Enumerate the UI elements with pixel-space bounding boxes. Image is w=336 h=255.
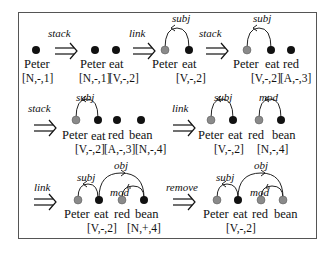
arc-subj: [217, 184, 238, 198]
transition-stack-1: stack: [48, 27, 77, 59]
word-eat: eat: [233, 207, 248, 221]
node-reduced-icon: [161, 46, 169, 54]
step-7: subj obj mod Peter eat red bean [V,-,2] …: [64, 159, 161, 235]
double-arrow-icon: [55, 43, 77, 59]
arc-label-obj: obj: [114, 159, 128, 171]
node-reduced-icon: [207, 116, 215, 124]
word-bean: bean: [274, 207, 298, 221]
node-reduced-icon: [74, 196, 82, 204]
node-icon: [32, 46, 40, 54]
node-reduced-icon: [255, 116, 263, 124]
word-bean: bean: [135, 207, 159, 221]
step-3: subj Peter eat [V,-,2]: [152, 12, 206, 85]
feature-label: [V,-,2]: [109, 72, 139, 85]
arc-subj: [165, 28, 189, 48]
feature-label: [V,-,2]: [251, 72, 281, 85]
transition-link-1: link: [129, 27, 155, 59]
word-red: red: [252, 207, 269, 221]
operation-label: remove: [166, 181, 198, 193]
word-eat: eat: [265, 57, 280, 71]
word-eat: eat: [182, 57, 197, 71]
node-icon: [287, 46, 295, 54]
step-6: subj mod Peter eat red bean [V,-,2] [N,-…: [198, 91, 296, 156]
arc-label-subj: subj: [253, 12, 271, 24]
node-icon: [140, 196, 148, 204]
node-icon: [95, 196, 103, 204]
double-arrow-icon: [173, 194, 195, 210]
word-peter: Peter: [80, 57, 107, 71]
word-peter: Peter: [233, 57, 260, 71]
operation-label: stack: [28, 102, 52, 114]
node-reduced-icon: [72, 116, 80, 124]
word-red: red: [114, 207, 131, 221]
transition-stack-3: stack: [28, 102, 56, 136]
node-icon: [185, 46, 193, 54]
feature-label: [A,-,3]: [280, 72, 311, 85]
feature-label: [N,-,1]: [22, 72, 53, 85]
step-2: Peter eat [N,-,1] [V,-,2]: [79, 46, 139, 85]
node-reduced-icon: [279, 196, 287, 204]
double-arrow-icon: [173, 120, 195, 136]
node-icon: [113, 116, 121, 124]
arc-label-subj: subj: [77, 171, 95, 183]
word-eat: eat: [109, 57, 124, 71]
word-peter: Peter: [203, 207, 230, 221]
node-reduced-icon: [257, 196, 265, 204]
node-reduced-icon: [118, 196, 126, 204]
feature-label: [A,-,3]: [104, 143, 135, 156]
word-peter: Peter: [62, 128, 89, 142]
operation-label: link: [34, 181, 52, 193]
step-1: Peter [N,-,1]: [22, 46, 53, 85]
operation-label: link: [129, 27, 147, 39]
feature-label: [V,-,2]: [226, 222, 256, 235]
node-icon: [277, 116, 285, 124]
double-arrow-icon: [34, 194, 56, 210]
operation-label: link: [172, 102, 190, 114]
operation-label: stack: [199, 27, 223, 39]
transition-link-2: link: [172, 102, 195, 136]
step-8: subj obj mod Peter eat red bean [V,-,2]: [203, 159, 298, 235]
word-eat: eat: [228, 128, 243, 142]
feature-label: [N,-,1]: [79, 72, 110, 85]
word-peter: Peter: [152, 57, 179, 71]
node-icon: [229, 116, 237, 124]
step-4: subj Peter eat red [V,-,2] [A,-,3]: [233, 12, 311, 85]
double-arrow-icon: [34, 120, 56, 136]
node-icon: [234, 196, 242, 204]
feature-label: [V,-,2]: [176, 72, 206, 85]
transition-stack-2: stack: [199, 27, 228, 59]
feature-label: [N,-,4]: [257, 143, 288, 156]
word-bean: bean: [272, 128, 296, 142]
feature-label: [N,-,4]: [135, 143, 166, 156]
word-peter: Peter: [198, 128, 225, 142]
arc-label-obj: obj: [254, 159, 268, 171]
arc-label-subj: subj: [172, 12, 190, 24]
feature-label: [N,+,4]: [127, 222, 161, 235]
arc-subj: [247, 28, 271, 48]
node-icon: [94, 116, 102, 124]
feature-label: [V,-,2]: [75, 143, 105, 156]
word-eat: eat: [94, 207, 109, 221]
arc-label-subj: subj: [214, 91, 232, 103]
node-icon: [267, 46, 275, 54]
feature-label: [V,-,2]: [87, 222, 117, 235]
arc-label-mod: mod: [259, 91, 278, 103]
arc-label-mod: mod: [110, 186, 129, 198]
node-icon: [137, 116, 145, 124]
transition-link-3: link: [34, 181, 56, 210]
node-reduced-icon: [243, 46, 251, 54]
feature-label: [V,-,2]: [214, 143, 244, 156]
parsing-diagram: Peter [N,-,1] stack Peter eat [N,-,1] [V…: [0, 0, 336, 255]
node-reduced-icon: [213, 196, 221, 204]
node-icon: [91, 46, 99, 54]
word-peter: Peter: [24, 57, 51, 71]
double-arrow-icon: [206, 43, 228, 59]
arc-subj: [78, 184, 98, 198]
word-eat: eat: [91, 129, 106, 143]
operation-label: stack: [48, 27, 72, 39]
word-red: red: [248, 128, 265, 142]
node-icon: [112, 46, 120, 54]
word-bean: bean: [129, 128, 153, 142]
word-red: red: [108, 128, 125, 142]
word-red: red: [283, 57, 300, 71]
